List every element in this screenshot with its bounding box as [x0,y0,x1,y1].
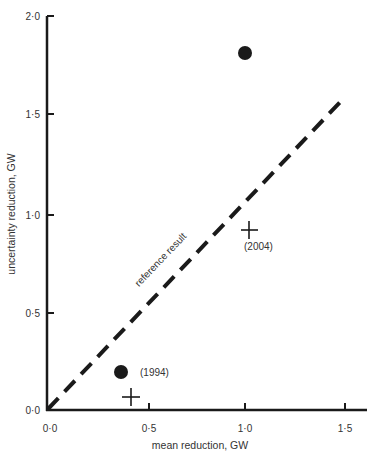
y-tick-1-0: 1·0 [26,210,41,221]
x-tick-1-5: 1·5 [338,423,353,434]
scatter-chart: 2·0 1·5 1·0 0·5 0·0 0·0 0·5 1·0 1·5 mean… [0,0,377,455]
plus-marker-1 [122,388,140,406]
y-tick-0-0: 0·0 [26,405,41,416]
x-tick-0-0: 0·0 [43,423,58,434]
dot-marker-1994 [114,365,128,379]
plus-marker-2004 [241,221,258,239]
y-axis [47,16,54,411]
x-tick-1-0: 1·0 [238,423,253,434]
y-axis-title: uncertainty reduction, GW [5,153,17,274]
reference-line [48,97,345,409]
x-axis-title: mean reduction, GW [152,439,248,451]
annotation-1994: (1994) [140,367,169,378]
annotation-2004: (2004) [244,241,273,252]
y-tick-0-5: 0·5 [26,308,41,319]
dot-marker-1 [238,46,252,60]
x-axis [46,403,367,410]
y-tick-1-5: 1·5 [26,109,41,120]
y-tick-2-0: 2·0 [26,11,41,22]
x-tick-0-5: 0·5 [142,423,157,434]
reference-line-label: reference result [133,230,189,288]
